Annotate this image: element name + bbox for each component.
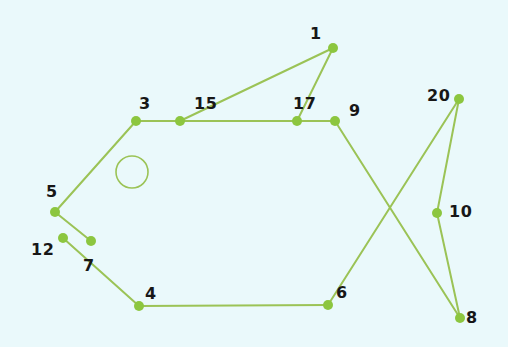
node-label-10: 10 xyxy=(449,204,472,220)
node-label-15: 15 xyxy=(194,96,217,112)
node-label-17: 17 xyxy=(293,96,316,112)
node-label-12: 12 xyxy=(31,242,54,258)
node-label-5: 5 xyxy=(46,184,58,200)
graph-node-17[interactable] xyxy=(292,116,302,126)
graph-node-15[interactable] xyxy=(175,116,185,126)
edges-layer xyxy=(55,48,460,318)
node-label-9: 9 xyxy=(349,103,361,119)
eye-circle-icon xyxy=(116,156,148,188)
graph-svg xyxy=(0,0,508,347)
node-label-3: 3 xyxy=(139,96,151,112)
graph-node-6[interactable] xyxy=(323,300,333,310)
graph-node-5[interactable] xyxy=(50,207,60,217)
node-label-7: 7 xyxy=(83,258,95,274)
node-label-4: 4 xyxy=(145,286,157,302)
graph-node-20[interactable] xyxy=(454,94,464,104)
graph-node-10[interactable] xyxy=(432,208,442,218)
graph-node-8[interactable] xyxy=(455,313,465,323)
graph-node-4[interactable] xyxy=(134,301,144,311)
graph-edge-4-6 xyxy=(139,305,328,306)
graph-node-7[interactable] xyxy=(86,236,96,246)
node-label-20: 20 xyxy=(427,88,450,104)
graph-edge-12-4 xyxy=(63,238,139,306)
graph-node-9[interactable] xyxy=(330,116,340,126)
node-label-1: 1 xyxy=(310,26,322,42)
graph-node-1[interactable] xyxy=(328,43,338,53)
graph-edge-9-8 xyxy=(335,121,460,318)
node-label-6: 6 xyxy=(336,285,348,301)
node-label-8: 8 xyxy=(466,310,478,326)
diagram-canvas: 131517920108645127 xyxy=(0,0,508,347)
graph-node-12[interactable] xyxy=(58,233,68,243)
shapes-layer xyxy=(116,156,148,188)
graph-edge-3-5 xyxy=(55,121,136,212)
graph-node-3[interactable] xyxy=(131,116,141,126)
graph-edge-10-8 xyxy=(437,213,460,318)
